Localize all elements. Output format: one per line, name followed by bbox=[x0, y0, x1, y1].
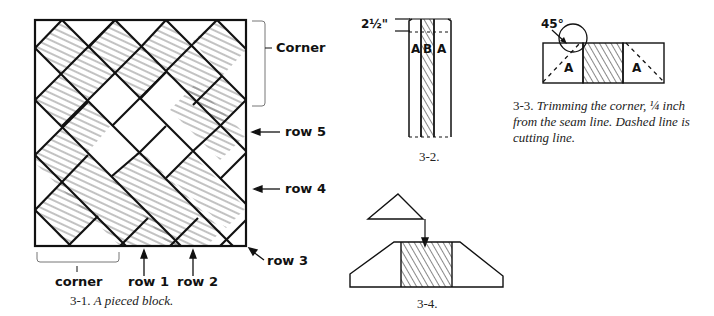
corner-bottom-bracket bbox=[37, 252, 119, 272]
pieced-block-diagram bbox=[35, 20, 246, 246]
square-label-a-right: A bbox=[632, 61, 641, 75]
label-row5: row 5 bbox=[285, 124, 326, 139]
caption-3-3: 3-3. Trimming the corner, ¼ inch from th… bbox=[513, 98, 690, 146]
caption-3-1: 3-1. A pieced block. bbox=[70, 293, 173, 309]
label-row4: row 4 bbox=[285, 181, 326, 196]
angle-label: 45° bbox=[541, 17, 564, 31]
trapezoid-diagram bbox=[350, 194, 503, 287]
label-corner-bottom: corner bbox=[55, 274, 103, 289]
triangle-piece bbox=[368, 194, 423, 219]
label-row2: row 2 bbox=[177, 274, 218, 289]
hatched-center-square bbox=[401, 242, 452, 287]
caption-3-4: 3-4. bbox=[417, 296, 438, 312]
square-label-a-left: A bbox=[564, 61, 573, 75]
label-corner-top: Corner bbox=[276, 40, 325, 55]
strip-set-diagram bbox=[395, 19, 451, 137]
caption-3-3-line-2: from the seam line. Dashed line is bbox=[513, 114, 690, 130]
caption-3-3-line-1: Trimming the corner, ¼ inch bbox=[537, 98, 685, 113]
caption-3-3-line-3: cutting line. bbox=[513, 130, 690, 146]
corner-top-bracket bbox=[252, 21, 272, 106]
caption-3-3-number: 3-3. bbox=[513, 98, 534, 113]
cutting-line-left bbox=[543, 43, 580, 82]
strip-label-a-left: A bbox=[411, 42, 420, 56]
trim-corner-diagram bbox=[543, 24, 664, 83]
strip-label-b: B bbox=[423, 42, 432, 56]
strip-label-a-right: A bbox=[437, 42, 446, 56]
label-row1: row 1 bbox=[128, 274, 169, 289]
caption-3-1-text: A pieced block. bbox=[94, 293, 174, 308]
caption-3-1-number: 3-1. bbox=[70, 293, 91, 308]
caption-3-2: 3-2. bbox=[419, 149, 440, 165]
label-row3: row 3 bbox=[267, 253, 308, 268]
dimension-label: 2½" bbox=[361, 17, 388, 31]
